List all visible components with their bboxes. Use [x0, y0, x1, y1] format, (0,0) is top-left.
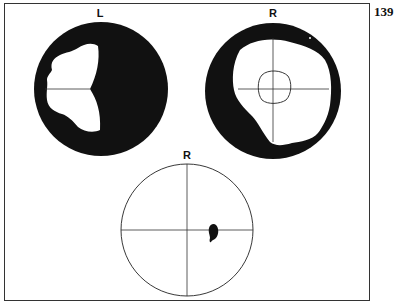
right-eye-field-2: R [121, 149, 253, 296]
right-eye-field-1: R [205, 7, 341, 159]
left-eye-field: L [34, 7, 168, 156]
field-label-r-top: R [269, 7, 277, 19]
blind-spot-dot [309, 37, 311, 39]
field-label-l: L [97, 7, 104, 19]
scotoma-spot [209, 224, 219, 242]
field-label-r-bottom: R [183, 149, 191, 161]
